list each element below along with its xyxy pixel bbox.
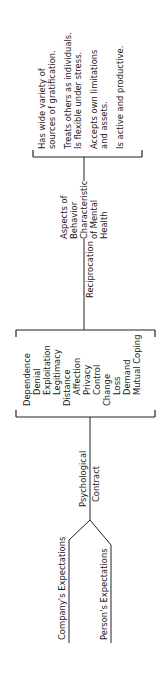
aspects-line: Aspects of <box>60 195 69 239</box>
company-expectations-label: Company's Expectations <box>58 537 67 640</box>
list-item: Control <box>93 365 102 395</box>
aspects-line: of Mental <box>90 200 99 239</box>
list-item: Denial <box>33 368 42 395</box>
list-item: sources of gratification. <box>48 50 57 149</box>
aspects-line: Characteristic <box>80 181 89 239</box>
reciprocation-label: Reciprocation <box>86 240 95 299</box>
person-expectations-label: Person's Expectations <box>100 548 109 640</box>
list-item: Has wide variety of <box>38 68 47 149</box>
list-item: Mutual Coping <box>133 335 142 396</box>
aspects-line: Behavior <box>70 202 79 239</box>
list-item: Accepts own limitations <box>90 50 99 149</box>
list-item: and assets. <box>100 101 109 149</box>
aspects-line: Health <box>100 211 109 239</box>
list-item: Affection <box>73 358 82 395</box>
list-item: Is active and productive. <box>116 46 125 149</box>
list-item: Dependence <box>23 353 32 406</box>
list-item: Privacy <box>83 365 92 395</box>
list-item: Legitimacy <box>53 349 62 395</box>
list-item: Loss <box>113 377 122 395</box>
list-item: Is flexible under stress. <box>74 52 83 149</box>
list-item: Demand <box>123 359 132 395</box>
psychological-contract-diagram: Company's Expectations Person's Expectat… <box>0 0 167 697</box>
contract-label: Contract <box>92 466 101 502</box>
psychological-label: Psychological <box>79 451 88 507</box>
list-item: Exploitation <box>43 345 52 395</box>
list-item: Distance <box>63 369 72 406</box>
list-item: Change <box>103 374 112 406</box>
list-item: Treats others as individuals. <box>64 32 73 149</box>
